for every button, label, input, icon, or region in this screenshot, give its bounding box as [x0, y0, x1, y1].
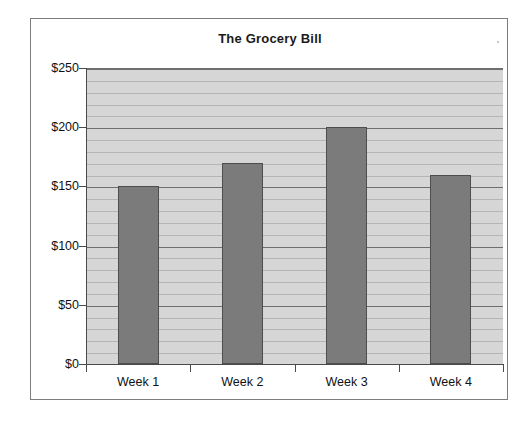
y-tick-label: $150 [33, 179, 79, 193]
bar-week-4[interactable] [430, 175, 471, 364]
y-tick-label: $50 [33, 298, 79, 312]
bar-week-2[interactable] [222, 163, 263, 364]
x-tick-mark [295, 365, 296, 372]
x-tick-label-week-1: Week 1 [117, 375, 159, 389]
y-tick-mark [79, 186, 87, 187]
bar-week-3[interactable] [326, 127, 367, 364]
y-tick-label: $250 [33, 61, 79, 75]
y-tick-mark [79, 246, 87, 247]
x-tick-mark [399, 365, 400, 372]
x-tick-label-week-2: Week 2 [221, 375, 263, 389]
x-tick-mark [503, 365, 504, 372]
y-tick-mark [79, 127, 87, 128]
x-tick-label-week-4: Week 4 [430, 375, 472, 389]
x-tick-mark [190, 365, 191, 372]
bar-week-1[interactable] [118, 186, 159, 364]
y-tick-label: $200 [33, 120, 79, 134]
x-tick-label-week-3: Week 3 [326, 375, 368, 389]
bars-layer [86, 69, 503, 364]
chart-title: The Grocery Bill [31, 31, 509, 46]
plot-area [86, 68, 503, 364]
x-tick-mark [86, 365, 87, 372]
chart-frame: The Grocery Bill $0$50$100$150$200$250 W… [30, 18, 508, 400]
y-tick-mark [79, 68, 87, 69]
y-axis-labels: $0$50$100$150$200$250 [31, 19, 79, 401]
y-axis-line [86, 68, 87, 365]
y-tick-label: $0 [33, 357, 79, 371]
dust-speck [497, 41, 499, 43]
y-tick-mark [79, 305, 87, 306]
y-tick-label: $100 [33, 239, 79, 253]
